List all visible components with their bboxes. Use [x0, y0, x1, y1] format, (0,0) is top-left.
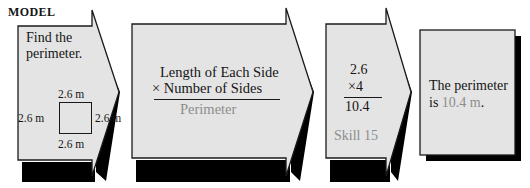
computation-product: 10.4	[345, 99, 370, 115]
panel-1-prompt-line-1: Find the	[26, 30, 72, 46]
formula-numerator-line-2: × Number of Sides	[152, 80, 262, 96]
answer-line-2: is 10.4 m.	[429, 95, 484, 111]
panel-3-shape	[326, 8, 414, 182]
computation-operand-1: 2.6	[350, 62, 368, 78]
panel-1-prompt-line-2: perimeter.	[26, 46, 82, 62]
answer-suffix: .	[481, 95, 485, 110]
model-worked-example-figure: MODEL Find the perimeter. 2.6 m	[0, 0, 530, 188]
computation-operand-2: ×4	[348, 79, 363, 95]
skill-reference: Skill 15	[334, 128, 378, 144]
answer-value: 10.4 m	[442, 95, 481, 110]
answer-line-1: The perimeter	[429, 78, 508, 94]
square-label-top: 2.6 m	[58, 88, 84, 100]
square-label-left: 2.6 m	[18, 112, 44, 124]
answer-prefix: is	[429, 95, 442, 110]
formula-denominator: Perimeter	[180, 101, 236, 117]
panel-3-shadow	[330, 160, 414, 182]
square-label-right: 2.6 m	[95, 112, 121, 124]
square-figure	[59, 102, 92, 134]
formula-numerator-line-1: Length of Each Side	[160, 64, 279, 80]
square-label-bottom: 2.6 m	[58, 138, 84, 150]
